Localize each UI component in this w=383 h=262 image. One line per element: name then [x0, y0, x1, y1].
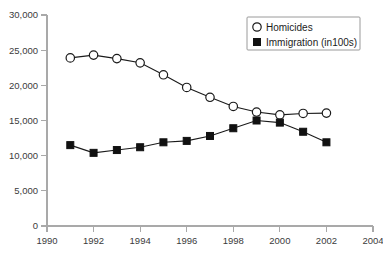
x-tick-label: 1998 — [223, 235, 244, 246]
chart-legend: HomicidesImmigration (in100s) — [247, 17, 360, 50]
data-point-open-circle — [322, 109, 330, 117]
data-point-open-circle — [252, 108, 260, 116]
x-tick-label: 2004 — [362, 235, 383, 246]
data-point-open-circle — [229, 102, 237, 110]
x-axis-group: 19901992199419961998200020022004 — [36, 226, 383, 246]
data-point-filled-square — [183, 137, 190, 144]
data-point-open-circle — [183, 83, 191, 91]
x-tick-label: 2002 — [316, 235, 337, 246]
data-point-filled-square — [276, 119, 283, 126]
data-point-filled-square — [90, 149, 97, 156]
y-tick-label: 20,000 — [9, 80, 38, 91]
data-point-open-circle — [136, 59, 144, 67]
line-chart: 05,00010,00015,00020,00025,00030,000 199… — [0, 0, 383, 262]
data-point-filled-square — [67, 142, 74, 149]
data-point-filled-square — [137, 144, 144, 151]
data-point-filled-square — [230, 125, 237, 132]
data-point-open-circle — [113, 54, 121, 62]
x-tick-label: 1994 — [130, 235, 151, 246]
data-point-open-circle — [299, 109, 307, 117]
y-tick-label: 25,000 — [9, 45, 38, 56]
data-point-filled-square — [207, 132, 214, 139]
data-point-open-circle — [276, 111, 284, 119]
data-point-filled-square — [323, 139, 330, 146]
data-point-open-circle — [159, 71, 167, 79]
x-tick-label: 1992 — [83, 235, 104, 246]
chart-canvas: 05,00010,00015,00020,00025,00030,000 199… — [0, 0, 383, 262]
data-point-open-circle — [206, 93, 214, 101]
x-tick-group: 19901992199419961998200020022004 — [36, 226, 383, 246]
legend-open-circle-icon — [253, 23, 261, 31]
x-tick-label: 1996 — [176, 235, 197, 246]
series-line-1 — [70, 55, 326, 115]
data-point-filled-square — [160, 139, 167, 146]
x-tick-label: 2000 — [269, 235, 290, 246]
data-point-filled-square — [253, 117, 260, 124]
x-tick-label: 1990 — [36, 235, 57, 246]
data-point-filled-square — [113, 147, 120, 154]
legend-label: Homicides — [266, 22, 313, 33]
legend-filled-square-icon — [254, 39, 261, 46]
data-point-open-circle — [89, 51, 97, 59]
y-tick-label: 10,000 — [9, 150, 38, 161]
data-point-open-circle — [66, 54, 74, 62]
y-axis-group: 05,00010,00015,00020,00025,00030,000 — [9, 9, 47, 231]
y-tick-label: 0 — [33, 220, 38, 231]
y-tick-label: 5,000 — [14, 185, 38, 196]
series-group — [66, 51, 331, 156]
y-tick-group: 05,00010,00015,00020,00025,00030,000 — [9, 9, 47, 231]
legend-label: Immigration (in100s) — [266, 37, 357, 48]
y-tick-label: 15,000 — [9, 115, 38, 126]
y-tick-label: 30,000 — [9, 9, 38, 20]
series-line-2 — [70, 121, 326, 153]
data-point-filled-square — [300, 128, 307, 135]
